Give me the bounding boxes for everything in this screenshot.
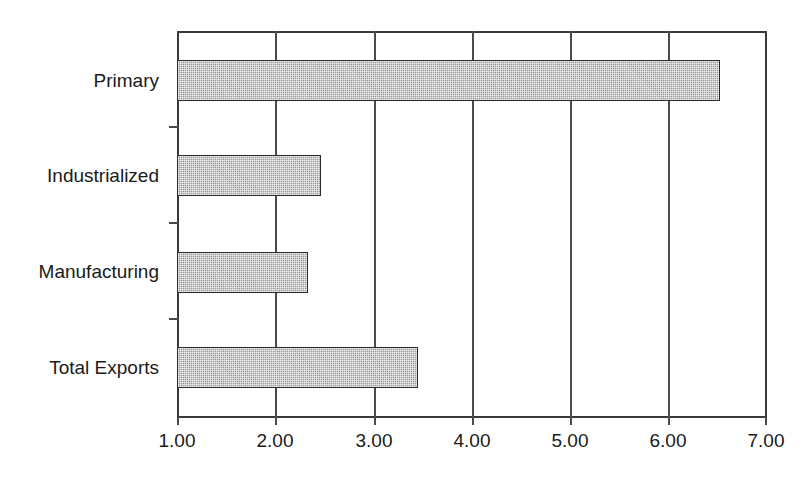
value-axis-label-6: 6.00 <box>628 430 708 452</box>
value-axis-tick-7 <box>765 417 767 425</box>
value-axis-tick-6 <box>668 417 670 425</box>
value-axis-label-5: 5.00 <box>530 430 610 452</box>
value-axis-label-3: 3.00 <box>334 430 414 452</box>
category-axis-labels: Primary Industrialized Manufacturing Tot… <box>0 0 159 481</box>
bar-industrialized <box>177 155 321 196</box>
value-axis-tick-3 <box>374 417 376 425</box>
value-axis-label-7: 7.00 <box>726 430 806 452</box>
category-label-total-exports: Total Exports <box>49 358 159 377</box>
value-axis-tick-2 <box>275 417 277 425</box>
plot-area <box>177 31 767 417</box>
value-axis-label-1: 1.00 <box>137 430 217 452</box>
plot-frame-right <box>765 31 767 418</box>
category-axis-tick-1 <box>169 126 178 128</box>
value-axis-label-4: 4.00 <box>432 430 512 452</box>
bar-manufacturing <box>177 252 308 293</box>
value-axis-tick-4 <box>472 417 474 425</box>
category-axis-tick-2 <box>169 222 178 224</box>
bar-total-exports <box>177 347 418 388</box>
category-label-industrialized: Industrialized <box>47 166 159 185</box>
value-axis-tick-1 <box>177 417 179 425</box>
bar-chart: Primary Industrialized Manufacturing Tot… <box>0 0 806 481</box>
category-label-primary: Primary <box>94 71 159 90</box>
category-label-manufacturing: Manufacturing <box>39 262 159 281</box>
bar-primary <box>177 60 720 101</box>
value-axis-tick-5 <box>570 417 572 425</box>
category-axis-tick-3 <box>169 318 178 320</box>
value-axis-label-2: 2.00 <box>235 430 315 452</box>
